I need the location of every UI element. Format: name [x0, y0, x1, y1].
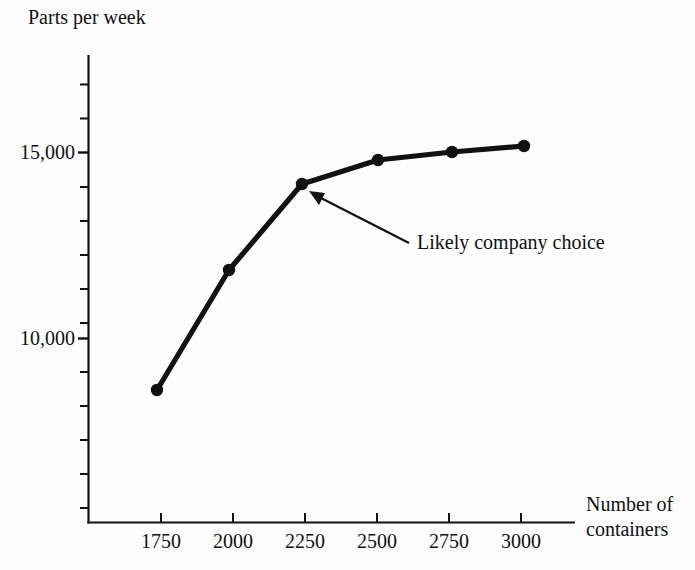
data-point-2750 — [446, 146, 458, 158]
annotation-arrow — [309, 191, 409, 243]
data-point-1750 — [151, 384, 163, 396]
data-point-3000 — [518, 140, 530, 152]
chart-canvas — [0, 0, 695, 570]
data-series-line — [157, 146, 524, 390]
data-point-2500 — [372, 154, 384, 166]
chart-figure: Parts per week Number of containers 15,0… — [0, 0, 695, 570]
axes-group — [87, 55, 575, 524]
y-axis-ticks — [78, 85, 89, 509]
data-point-2000 — [223, 264, 235, 276]
data-point-markers — [151, 140, 530, 396]
annotation-arrow-line — [317, 196, 409, 243]
data-point-2250 — [296, 178, 308, 190]
